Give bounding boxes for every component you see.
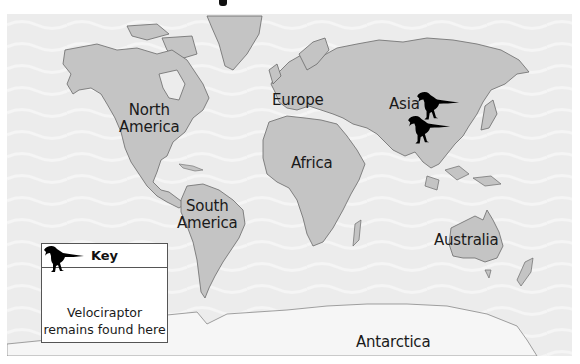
title-fragment — [219, 0, 227, 6]
label-australia: Australia — [434, 232, 499, 249]
label-north-america: North America — [119, 102, 179, 136]
key-description: Velociraptor remains found here — [42, 304, 167, 338]
label-antarctica: Antarctica — [356, 334, 430, 351]
label-africa: Africa — [291, 155, 333, 172]
velociraptor-icon — [42, 244, 84, 274]
label-south-america: South America — [177, 198, 237, 232]
label-europe: Europe — [272, 92, 324, 109]
map-key: Key Velociraptor remains found here — [41, 243, 168, 343]
world-map: North America South America Europe Afric… — [7, 14, 572, 356]
label-asia: Asia — [389, 96, 420, 113]
